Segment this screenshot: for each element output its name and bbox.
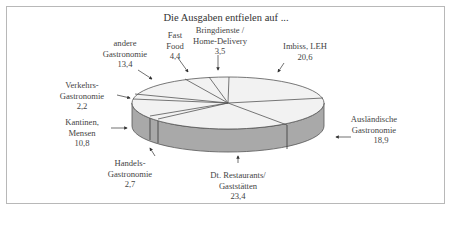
label-verkehrs-gastronomie: Verkehrs- Gastronomie 2,2	[52, 80, 112, 112]
label-imbiss-leh: Imbiss, LEH 20,6	[270, 41, 340, 62]
label-andere-gastronomie: andere Gastronomie 13,4	[95, 38, 155, 70]
label-kantinen-mensen: Kantinen, Mensen 10,8	[57, 117, 107, 149]
label-bringdienste: Bringdienste / Home-Delivery 3,5	[182, 25, 258, 57]
label-dt-restaurants: Dt. Restaurants/ Gaststätten 23,4	[203, 170, 273, 202]
label-handels-gastronomie: Handels- Gastronomie 2,7	[100, 158, 160, 190]
label-auslaendische-gastronomie: Ausländische Gastronomie 18,9	[342, 114, 406, 146]
